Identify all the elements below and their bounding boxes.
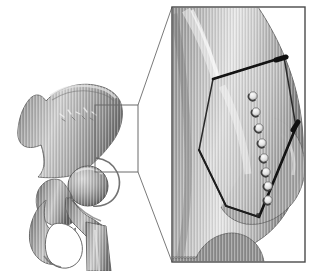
figure-root: Periacetabular osteotomy of the hip [0,0,316,271]
apex-pit [256,213,260,217]
drill-hole [263,182,272,191]
drill-hole [257,139,266,148]
drill-hole [251,108,260,117]
anatomical-figure-svg: Periacetabular osteotomy of the hip [0,0,316,271]
drill-hole [263,196,272,205]
drill-hole [261,168,270,177]
drill-hole [248,92,257,101]
osteotomy-detail-magnified [172,7,305,262]
drill-hole [259,154,268,163]
drill-hole [254,124,263,133]
